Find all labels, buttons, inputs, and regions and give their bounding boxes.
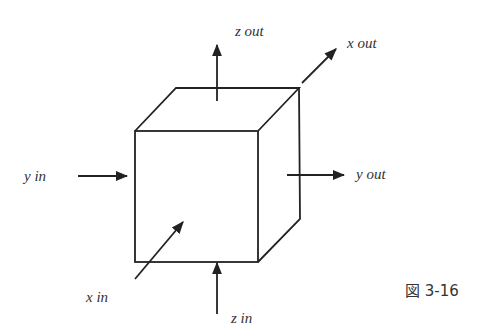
x-out-arrow bbox=[302, 49, 336, 83]
label-x-in: x in bbox=[86, 290, 108, 305]
cube-front-face bbox=[135, 131, 258, 262]
label-y-in: y in bbox=[24, 169, 46, 184]
figure-caption: 図 3-16 bbox=[405, 284, 459, 299]
label-z-out: z out bbox=[235, 24, 264, 39]
label-z-in: z in bbox=[231, 311, 252, 326]
label-y-out: y out bbox=[356, 167, 386, 182]
cube-flux-diagram: z out x out y in y out x in z in 図 3-16 bbox=[0, 0, 491, 336]
x-in-arrow bbox=[135, 222, 183, 279]
label-x-out: x out bbox=[347, 36, 377, 51]
